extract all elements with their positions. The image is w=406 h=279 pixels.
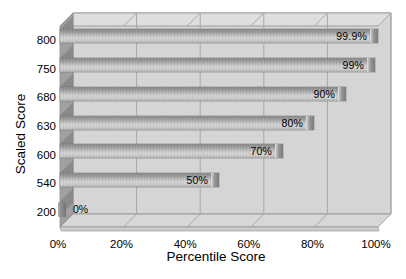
bar-value-label: 0% xyxy=(73,202,88,216)
bar-200 xyxy=(58,202,66,217)
bar-chart-figure: 99.9%99%90%80%70%50%0% 80075068063060054… xyxy=(0,0,406,279)
plot-floor-edge xyxy=(60,227,379,231)
bar-630: 80% xyxy=(60,116,314,130)
bar-end-cap xyxy=(306,116,314,130)
bar-value-label: 50% xyxy=(186,173,208,187)
bar-750: 99% xyxy=(60,58,375,72)
y-tick-label: 750 xyxy=(14,62,56,77)
x-tick-label: 80% xyxy=(287,237,337,251)
bar-end-cap xyxy=(367,58,375,72)
bar-value-label: 70% xyxy=(250,144,272,158)
plot-roof xyxy=(60,13,391,26)
bar-540: 50% xyxy=(60,173,219,187)
x-axis-title: Percentile Score xyxy=(166,249,265,264)
y-tick-label: 540 xyxy=(14,176,56,191)
bar-value-label: 99.9% xyxy=(336,29,367,43)
x-tick-label: 20% xyxy=(97,237,147,251)
bar-680: 90% xyxy=(60,87,346,101)
bar-value-label: 90% xyxy=(313,87,335,101)
bar-end-cap xyxy=(338,87,346,101)
bar-end-cap xyxy=(370,29,378,43)
bar-value-label: 99% xyxy=(342,58,364,72)
bar-600: 70% xyxy=(60,144,283,158)
bar-end-cap xyxy=(275,144,283,158)
y-tick-label: 800 xyxy=(14,33,56,48)
bar-value-label: 80% xyxy=(281,116,303,130)
bar-end-cap xyxy=(211,173,219,187)
plot-floor xyxy=(60,214,391,227)
y-tick-label: 200 xyxy=(14,205,56,220)
bar-800: 99.9% xyxy=(60,29,378,43)
x-tick-label: 0% xyxy=(33,237,83,251)
y-axis-title: Scaled Score xyxy=(13,94,28,174)
x-tick-label: 100% xyxy=(351,237,401,251)
